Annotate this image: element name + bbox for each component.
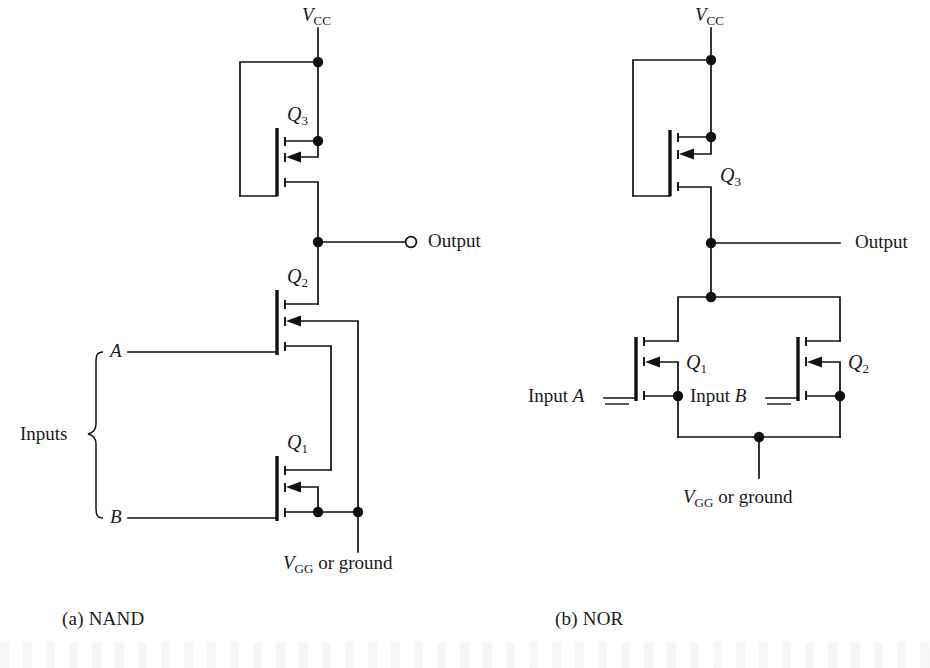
nand-q3-source-lead	[285, 182, 318, 242]
scan-artifact-row	[0, 642, 930, 668]
nand-vcc-label: VCC	[302, 5, 331, 24]
nor-q1-body-lead	[659, 362, 678, 396]
nand-q3-body-arrow	[286, 152, 301, 163]
nand-q2-body-lead-rail	[300, 321, 358, 512]
nand-q3-label: Q3	[287, 104, 308, 124]
nor-vgg-label: VGG or ground	[683, 487, 793, 506]
nor-q2-label: Q2	[848, 352, 869, 372]
nor-common-drain-right-bus	[711, 297, 840, 341]
nor-q2-body-arrow	[807, 357, 822, 368]
nand-q1-body-arrow	[286, 482, 301, 493]
nand-q2-body-arrow	[286, 316, 301, 327]
nand-q1-label: Q1	[287, 432, 308, 452]
nor-input-a-label: Input A	[528, 386, 584, 405]
caption-nand: (a) NAND	[62, 608, 144, 630]
figure-root: VCC Q3 Output Q2 Q1 A B Inputs VGG or gr…	[0, 0, 930, 668]
nand-output-open-terminal[interactable]	[406, 237, 417, 248]
nor-q3-gate-feedback-wire	[633, 60, 711, 196]
nor-vcc-label: VCC	[695, 5, 724, 24]
nor-q3-label: Q3	[720, 165, 741, 185]
nor-circuit	[604, 28, 845, 478]
nor-q1-body-arrow	[645, 357, 660, 368]
nand-vgg-label: VGG or ground	[283, 553, 393, 572]
nor-q2-body-lead	[821, 362, 840, 396]
nand-q3-gate-feedback-wire	[240, 62, 318, 196]
nor-q3-source-lead	[678, 187, 711, 243]
caption-nor: (b) NOR	[555, 608, 623, 630]
nor-q3-body-arrow	[679, 149, 694, 160]
nand-q2-label: Q2	[287, 266, 308, 286]
nor-common-drain-left-bus	[678, 297, 711, 341]
nand-circuit	[88, 28, 416, 552]
nor-q1-label: Q1	[686, 352, 707, 372]
nand-input-b-label: B	[110, 507, 122, 526]
nand-input-a-label: A	[110, 341, 122, 360]
nor-input-b-label: Input B	[690, 386, 746, 405]
circuit-schematic-canvas	[0, 0, 930, 668]
nand-output-label: Output	[428, 231, 481, 250]
nand-source-node-dot	[313, 507, 323, 517]
nand-inputs-brace	[88, 352, 103, 518]
nand-inputs-label: Inputs	[20, 424, 68, 443]
nor-output-label: Output	[855, 232, 908, 251]
